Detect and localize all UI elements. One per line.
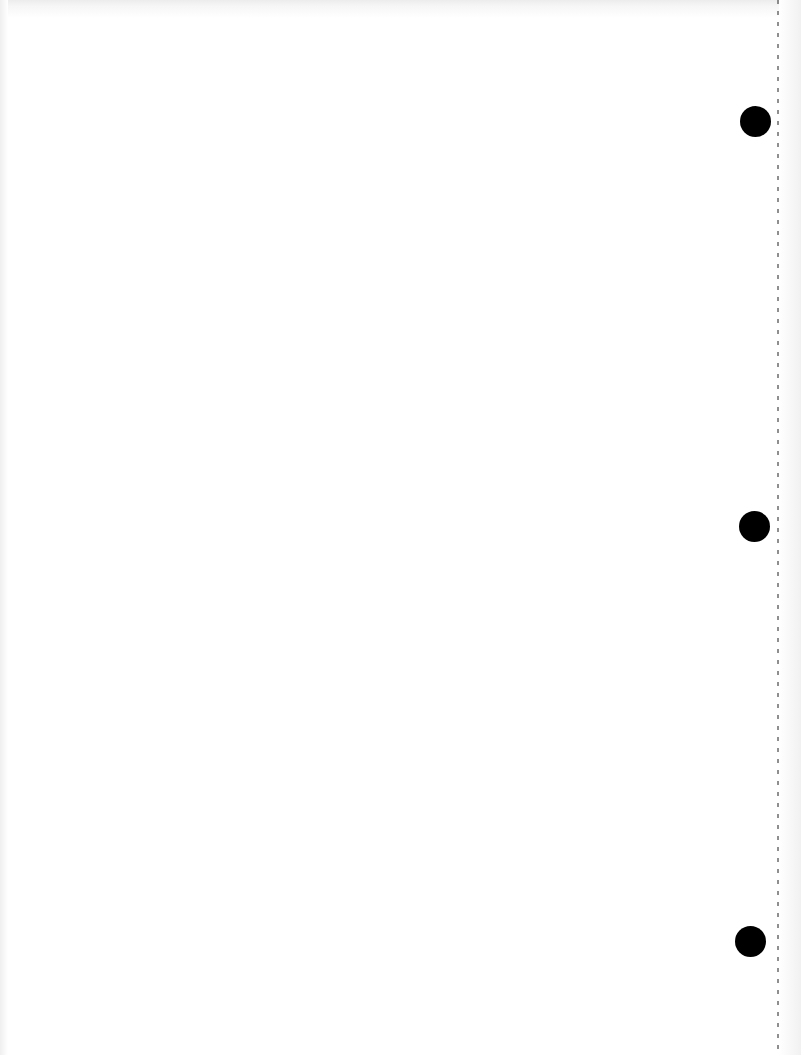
- hole-punch-top: [740, 106, 771, 137]
- hole-punch-middle: [739, 511, 770, 542]
- scanned-page: [0, 0, 801, 1055]
- perforation-line: [777, 0, 779, 1055]
- page-edge-shadow-left: [0, 0, 8, 1055]
- hole-punch-bottom: [735, 926, 766, 957]
- page-edge-shadow-right: [779, 0, 801, 1055]
